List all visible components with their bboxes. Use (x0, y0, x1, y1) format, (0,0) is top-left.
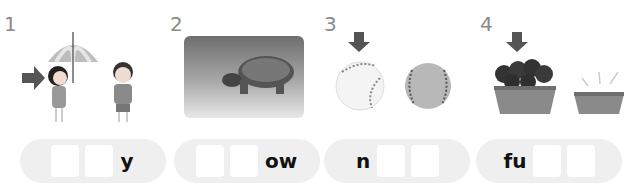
given-letters: n (356, 149, 370, 173)
tortoise-photo (184, 36, 304, 118)
arrow-down-icon (506, 32, 528, 52)
arrow-down-icon (348, 32, 370, 52)
exercise-item-4: 4 fu (476, 0, 631, 187)
exercise-item-2: 2 ow (166, 0, 321, 187)
letter-blank-box[interactable] (377, 145, 405, 177)
item-number: 2 (170, 12, 183, 36)
given-letters: y (120, 149, 133, 173)
letter-blank-box[interactable] (230, 145, 258, 177)
letter-blank-box[interactable] (85, 145, 113, 177)
letter-blank-box[interactable] (51, 145, 79, 177)
baskets-illustration (488, 30, 628, 120)
given-letters: ow (265, 149, 297, 173)
item-number: 1 (4, 12, 17, 36)
baseballs-illustration (332, 30, 462, 120)
word-blank-pill-3: n (324, 139, 470, 183)
word-blank-pill-4: fu (476, 139, 622, 183)
letter-blank-box[interactable] (196, 145, 224, 177)
letter-blank-box[interactable] (411, 145, 439, 177)
girl-umbrella-boy-illustration (18, 28, 148, 128)
given-letters: fu (504, 149, 527, 173)
word-blank-pill-1: y (20, 139, 166, 183)
letter-blank-box[interactable] (533, 145, 561, 177)
word-blank-pill-2: ow (174, 139, 320, 183)
arrow-right-icon (22, 66, 45, 90)
exercise-item-3: 3 n (320, 0, 475, 187)
exercise-item-1: 1 y (0, 0, 155, 187)
letter-blank-box[interactable] (567, 145, 595, 177)
